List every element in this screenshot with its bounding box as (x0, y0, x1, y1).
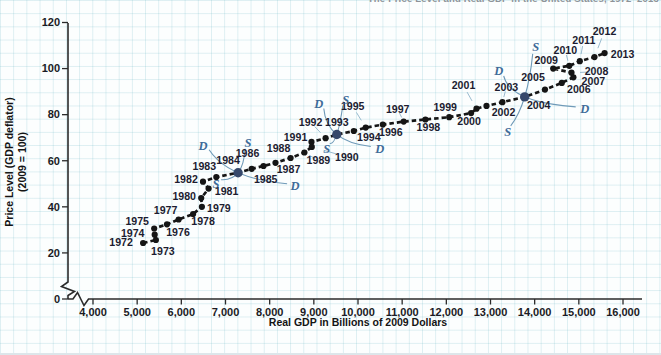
data-point-1974 (152, 232, 158, 238)
year-label-2008: 2008 (585, 65, 609, 77)
data-point-1992 (323, 135, 329, 141)
price-level-real-gdp-chart: 4,0005,0006,0007,0008,0009,00010,00011,0… (0, 0, 661, 355)
data-point-1986 (260, 163, 266, 169)
demand-label-1984: D (198, 139, 208, 153)
year-label-2002: 2002 (492, 106, 516, 118)
data-point-1975 (151, 225, 157, 231)
year-label-2000: 2000 (457, 115, 481, 127)
year-label-1975: 1975 (125, 215, 149, 227)
supply-label-1984: S (245, 136, 252, 150)
data-point-2013 (602, 50, 608, 56)
demand-label-1993: D (313, 97, 323, 111)
year-label-1987: 1987 (277, 163, 301, 175)
data-point-1977 (176, 216, 182, 222)
year-label-1976: 1976 (166, 226, 190, 238)
data-point-1982 (200, 179, 206, 185)
data-point-2002 (483, 103, 489, 109)
x-tick-label: 4,000 (79, 306, 107, 318)
labels-layer: 1972197319741975197619771978197919801981… (109, 25, 634, 257)
demand-label-2004: D (493, 64, 503, 78)
year-leader-2001 (467, 92, 472, 101)
demand-label-2004: D (579, 102, 589, 116)
year-label-1983: 1983 (193, 160, 217, 172)
data-point-1980 (198, 195, 204, 201)
y-axis-title-line1: Price Level (GDP deflator) (3, 97, 15, 226)
supply-label-1993: S (323, 142, 330, 156)
y-tick-label: 120 (42, 16, 60, 28)
year-label-2013: 2013 (611, 48, 635, 60)
year-label-1977: 1977 (154, 204, 178, 216)
data-point-1979 (199, 204, 205, 210)
year-label-1980: 1980 (172, 190, 196, 202)
x-axis-title: Real GDP in Billions of 2009 Dollars (269, 316, 448, 328)
x-axis-line (68, 293, 642, 306)
year-label-2001: 2001 (452, 79, 476, 91)
data-point-2003 (499, 99, 505, 105)
y-axis-title-line2: (2009 = 100) (16, 132, 28, 192)
year-label-1985: 1985 (254, 173, 278, 185)
equilibrium-point-1993 (332, 130, 341, 139)
year-leader-2012 (598, 38, 602, 48)
year-label-1997: 1997 (386, 103, 410, 115)
year-label-1989: 1989 (307, 154, 331, 166)
data-point-1988 (288, 155, 294, 161)
y-tick-label: 0 (54, 293, 60, 305)
data-point-2008 (568, 70, 574, 76)
data-point-2006 (559, 80, 565, 86)
year-label-1979: 1979 (207, 202, 231, 214)
data-point-1994 (351, 128, 357, 134)
year-label-1996: 1996 (379, 126, 403, 138)
data-point-2001 (473, 106, 479, 112)
year-label-1991: 1991 (284, 131, 308, 143)
chart-page: The Price Level and Real GDP in the Unit… (0, 0, 661, 355)
year-label-1982: 1982 (174, 173, 198, 185)
demand-label-1984: D (290, 179, 300, 193)
data-point-2012 (591, 54, 597, 60)
year-label-2003: 2003 (495, 81, 519, 93)
year-label-1993: 1993 (325, 116, 349, 128)
year-label-1990: 1990 (335, 151, 359, 163)
year-label-1992: 1992 (299, 116, 323, 128)
year-label-1973: 1973 (151, 245, 175, 257)
supply-label-2004: S (504, 125, 511, 139)
y-tick-label: 20 (48, 247, 60, 259)
x-tick-label: 15,000 (562, 306, 596, 318)
data-point-1997 (401, 119, 407, 125)
year-label-1978: 1978 (191, 215, 215, 227)
data-point-2009 (550, 66, 556, 72)
data-point-2010 (566, 63, 572, 69)
year-label-1999: 1999 (433, 101, 457, 113)
year-label-1998: 1998 (417, 121, 441, 133)
data-point-1985 (249, 166, 255, 172)
demand-label-1993: D (374, 142, 384, 156)
data-point-1973 (153, 237, 159, 243)
year-label-2005: 2005 (521, 71, 545, 83)
year-label-1974: 1974 (121, 227, 145, 239)
year-label-2010: 2010 (554, 44, 578, 56)
y-tick-label: 60 (48, 155, 60, 167)
year-label-1988: 1988 (267, 142, 291, 154)
x-tick-label: 16,000 (606, 306, 640, 318)
x-tick-label: 7,000 (212, 306, 240, 318)
x-tick-label: 14,000 (518, 306, 552, 318)
data-point-1999 (446, 114, 452, 120)
data-point-1981 (206, 186, 212, 192)
y-tick-label: 80 (48, 108, 60, 120)
year-leader-2011 (581, 46, 583, 54)
data-point-1972 (140, 240, 146, 246)
x-tick-label: 13,000 (474, 306, 508, 318)
supply-label-1993: S (342, 93, 349, 107)
supply-label-1984: S (213, 177, 220, 191)
x-tick-label: 6,000 (168, 306, 196, 318)
year-label-2004: 2004 (527, 99, 551, 111)
data-point-1991 (308, 139, 314, 145)
year-label-2012: 2012 (593, 25, 617, 37)
y-tick-label: 40 (48, 201, 60, 213)
equilibrium-point-1984 (233, 168, 242, 177)
year-leader-1995 (356, 112, 361, 120)
y-tick-label: 100 (42, 62, 60, 74)
data-point-2005 (542, 87, 548, 93)
supply-label-2004: S (532, 40, 539, 54)
data-point-2011 (577, 58, 583, 64)
x-tick-label: 5,000 (123, 306, 151, 318)
